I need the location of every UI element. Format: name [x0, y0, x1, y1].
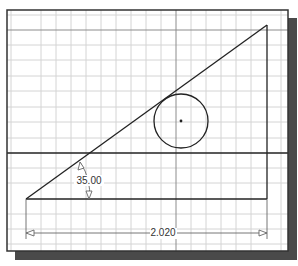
angle-dimension-label[interactable]: 35.00 [76, 175, 101, 186]
linear-dimension-label[interactable]: 2.020 [150, 227, 175, 238]
sketch-canvas[interactable]: 35.00 2.020 [0, 0, 298, 266]
drawing-area [7, 10, 288, 251]
circle-center-point[interactable] [180, 120, 183, 123]
frame-shadow-bottom [15, 251, 296, 260]
frame-shadow-right [288, 18, 297, 260]
